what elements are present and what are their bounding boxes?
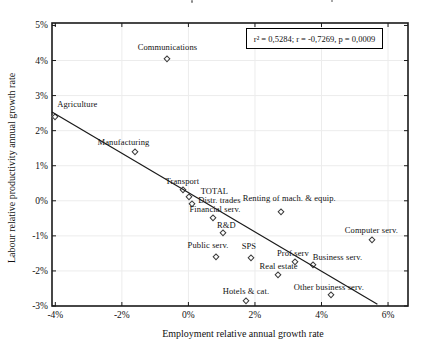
regression-stats-text: r² = 0,5284; r = -0,7269, p = 0,0009 <box>254 34 375 44</box>
regression-stats-box: r² = 0,5284; r = -0,7269, p = 0,0009 <box>246 28 383 49</box>
scatter-chart-figure: Employment relative annual growth rate L… <box>0 0 427 358</box>
trendline-layer <box>0 0 427 358</box>
regression-trendline <box>52 112 377 304</box>
